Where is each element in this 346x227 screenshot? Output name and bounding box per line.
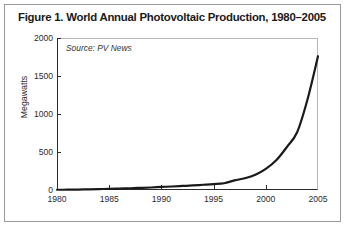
y-tick-label: 2000 [13, 33, 53, 43]
y-tick-label: 500 [13, 147, 53, 157]
y-axis-title: Megawatts [19, 57, 29, 137]
x-tick-label: 1985 [86, 194, 132, 204]
x-tick-label: 2005 [295, 194, 341, 204]
x-tick-label: 2000 [243, 194, 289, 204]
x-tick-label: 1980 [34, 194, 80, 204]
y-tick-label: 1500 [13, 71, 53, 81]
x-tick-label: 1995 [191, 194, 237, 204]
y-tick-label: 1000 [13, 109, 53, 119]
x-tick-label: 1990 [138, 194, 184, 204]
chart-container: Megawatts Source: PV News 05001000150020… [0, 0, 346, 227]
data-series-line [57, 38, 318, 190]
